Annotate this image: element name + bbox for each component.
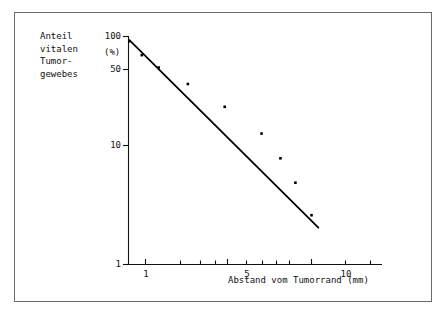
data-point: [141, 54, 144, 57]
data-point: [128, 40, 131, 43]
data-point: [260, 132, 263, 135]
x-axis-ticks: [146, 259, 371, 264]
figure-canvas: Anteil vitalen Tumor- gewebes (%) 100 50…: [0, 0, 447, 314]
plot-area: [0, 0, 447, 314]
data-point: [223, 106, 226, 109]
data-point: [294, 181, 297, 184]
data-point: [187, 83, 190, 86]
y-axis-ticks: [123, 37, 128, 265]
data-point: [310, 214, 313, 217]
data-point: [279, 157, 282, 160]
data-point: [157, 66, 160, 69]
